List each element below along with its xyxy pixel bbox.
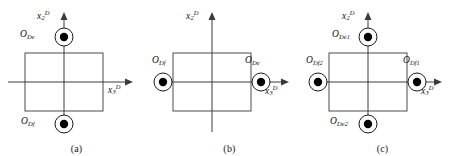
marker-label-right-c: ODf1 xyxy=(403,56,420,66)
marker-label-top-a: ODe xyxy=(20,30,35,40)
horizontal-axis-arrowhead xyxy=(125,79,133,86)
figure-container: x2D x3D ODe ODf (a) x2D x3D ODf ODe (b) xyxy=(0,0,459,156)
marker-dot-right xyxy=(257,78,265,86)
vertical-axis-arrowhead xyxy=(209,12,216,20)
marker-label-left-c: ODf2 xyxy=(306,56,323,66)
marker-dot-left xyxy=(159,78,167,86)
marker-label-right-b: ODe xyxy=(245,56,260,66)
horizontal-axis-label-c: x3D xyxy=(421,85,434,97)
panel-caption-a: (a) xyxy=(0,143,153,154)
marker-dot-bottom xyxy=(60,120,68,128)
panel-c-drawing xyxy=(306,0,459,156)
horizontal-axis-arrowhead xyxy=(281,79,289,86)
vertical-axis-arrowhead xyxy=(365,12,372,20)
marker-dot-top xyxy=(364,33,372,41)
vertical-axis-arrowhead xyxy=(61,12,68,20)
panel-caption-c: (c) xyxy=(306,143,459,154)
marker-dot-top xyxy=(60,33,68,41)
panel-caption-b: (b) xyxy=(153,143,306,154)
horizontal-axis-label-a: x3D xyxy=(108,84,121,96)
panel-b-drawing xyxy=(153,0,306,156)
marker-label-top-c: ODe1 xyxy=(332,30,350,40)
marker-label-bottom-a: ODf xyxy=(21,117,35,127)
panel-c: x2D x3D ODe1 ODf2 ODf1 ODe2 (c) xyxy=(306,0,459,156)
vertical-axis-label-a: x2D xyxy=(37,10,50,22)
panel-a-drawing xyxy=(0,0,153,156)
marker-label-left-b: ODf xyxy=(152,56,166,66)
marker-label-bottom-c: ODe2 xyxy=(330,117,348,127)
horizontal-axis-label-b: x3D xyxy=(265,85,278,97)
marker-dot-left xyxy=(314,78,322,86)
marker-dot-bottom xyxy=(364,120,372,128)
horizontal-axis-arrowhead xyxy=(434,79,442,86)
vertical-axis-label-b: x2D xyxy=(186,10,199,22)
panel-b: x2D x3D ODf ODe (b) xyxy=(153,0,306,156)
panel-a: x2D x3D ODe ODf (a) xyxy=(0,0,153,156)
vertical-axis-label-c: x2D xyxy=(342,10,355,22)
marker-dot-right xyxy=(413,78,421,86)
